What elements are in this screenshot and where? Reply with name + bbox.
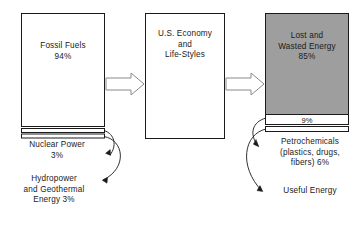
lost-wasted-energy-box	[266, 14, 349, 115]
petrochemicals-caption: Petrochemicals (plastics, drugs, fibers)…	[259, 137, 361, 169]
useful-energy-caption: Useful Energy	[263, 186, 357, 197]
energy-flow-diagram: Fossil Fuels 94% Nuclear Power 3% Hydrop…	[0, 0, 363, 230]
hydropower-geothermal-band	[22, 134, 105, 138]
flow-arrow-middle-to-right	[226, 73, 264, 95]
flow-arrow-left-to-middle	[106, 73, 144, 95]
petrochemicals-band-percent: 9%	[265, 116, 349, 125]
us-economy-box	[146, 14, 225, 139]
useful-energy-band	[266, 127, 349, 132]
hydropower-leader-curve	[103, 137, 120, 181]
nuclear-power-leader-arrowhead	[106, 150, 111, 156]
fossil-fuels-box	[22, 14, 105, 127]
hydropower-geothermal-caption: Hydropower and Geothermal Energy 3%	[4, 174, 104, 206]
nuclear-power-band	[22, 129, 105, 133]
nuclear-power-caption: Nuclear Power 3%	[12, 140, 102, 161]
